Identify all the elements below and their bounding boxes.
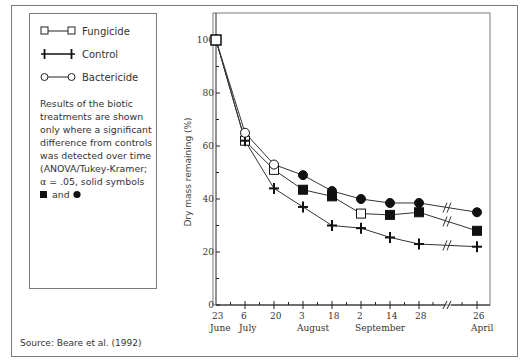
chart: 020406080100 23June6July203August182Sept… [0, 0, 527, 363]
y-tick-label: 40 [203, 194, 215, 204]
y-tick-label: 0 [208, 300, 214, 310]
y-tick-label: 80 [203, 88, 215, 98]
y-tick-label: 20 [203, 247, 215, 257]
bactericide-point [241, 128, 250, 137]
y-axis-label: Dry mass remaining (%) [183, 117, 193, 226]
x-tick-label: 28 [415, 311, 427, 321]
x-axis: 23June6July203August182September142826Ap… [209, 301, 493, 333]
control-point [356, 223, 366, 234]
x-month-label: June [209, 323, 231, 333]
control-point [298, 201, 308, 212]
x-tick-label: 14 [386, 311, 398, 321]
series-line-fungicide [216, 40, 419, 215]
x-month-label: July [238, 323, 257, 333]
control-point [269, 183, 279, 194]
x-tick-label: 18 [328, 311, 340, 321]
series-line-control [419, 244, 477, 247]
control-point [414, 239, 424, 250]
x-month-label: August [296, 323, 329, 333]
series-lines [216, 40, 477, 250]
fungicide-point [357, 209, 366, 218]
x-tick-label: 23 [212, 311, 224, 321]
start-point [211, 35, 221, 45]
control-point [472, 241, 482, 252]
y-axis: 020406080100 [197, 13, 220, 310]
control-point [327, 220, 337, 231]
bactericide-point [415, 198, 424, 207]
fungicide-point [473, 226, 482, 235]
x-tick-label: 6 [241, 311, 247, 321]
y-tick-label: 60 [203, 141, 215, 151]
series-line-bactericide [216, 40, 419, 203]
x-month-label: September [355, 323, 406, 333]
bactericide-point [386, 198, 395, 207]
bactericide-point [328, 187, 337, 196]
control-point [385, 232, 395, 243]
bactericide-point [357, 195, 366, 204]
series-line-fungicide [419, 212, 477, 231]
fungicide-point [386, 210, 395, 219]
x-tick-label: 2 [357, 311, 363, 321]
x-tick-label: 26 [473, 311, 485, 321]
source-note: Source: Beare et al. (1992) [20, 338, 142, 348]
bactericide-point [299, 171, 308, 180]
x-tick-label: 3 [299, 311, 305, 321]
x-month-label: April [470, 323, 493, 333]
bactericide-point [270, 160, 279, 169]
x-tick-label: 20 [270, 311, 282, 321]
fungicide-point [299, 185, 308, 194]
fungicide-point [415, 208, 424, 217]
bactericide-point [473, 208, 482, 217]
plot-frame [213, 13, 490, 305]
